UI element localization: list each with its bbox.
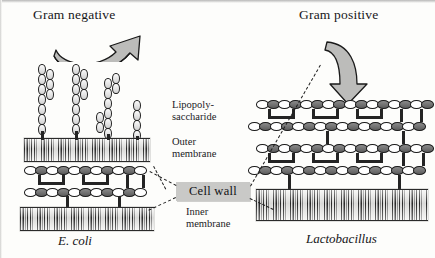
label-inner-membrane-line1: Inner bbox=[186, 206, 208, 218]
label-outer-membrane-line2: membrane bbox=[172, 148, 216, 160]
peptide-crosslink bbox=[126, 175, 129, 188]
inner-membrane-bilayer bbox=[20, 207, 154, 231]
scan-edge-left bbox=[0, 0, 2, 258]
peptidoglycan-row bbox=[24, 188, 150, 197]
peptidoglycan-row bbox=[248, 122, 424, 131]
lps-anchor bbox=[136, 136, 139, 140]
inner-membrane-bilayer bbox=[256, 189, 428, 221]
cell-envelope-diagram: Gram negative Gram positive bbox=[0, 0, 435, 258]
curved-arrow-down-icon bbox=[321, 38, 371, 108]
peptide-crosslink bbox=[420, 109, 423, 122]
peptide-crosslink-bar bbox=[356, 160, 383, 163]
title-gram-negative: Gram negative bbox=[33, 7, 115, 23]
peptide-crosslink-bar bbox=[312, 160, 339, 163]
peptide-crosslink-bar bbox=[268, 160, 295, 163]
label-inner-membrane-line2: membrane bbox=[186, 218, 230, 230]
label-outer-membrane-line1: Outer bbox=[172, 136, 196, 148]
peptidoglycan-row bbox=[248, 166, 424, 175]
label-cell-wall: Cell wall bbox=[189, 184, 237, 199]
peptidoglycan-row bbox=[256, 144, 432, 153]
curved-arrow-up-right-icon bbox=[52, 26, 157, 62]
callout-guide-line bbox=[148, 197, 176, 211]
species-label-right: Lactobacillus bbox=[306, 231, 377, 247]
peptide-crosslink bbox=[400, 109, 403, 122]
label-lipopolysaccharide-line1: Lipopoly- bbox=[172, 99, 214, 111]
scan-edge-top bbox=[0, 0, 435, 3]
peptide-crosslink-bar bbox=[312, 116, 339, 119]
peptide-crosslink-bar bbox=[38, 182, 65, 185]
lps-anchor bbox=[107, 134, 110, 140]
peptidoglycan-row bbox=[24, 166, 150, 175]
peptide-crosslink bbox=[402, 153, 405, 166]
species-label-left: E. coli bbox=[58, 233, 92, 249]
peptide-crosslink bbox=[422, 153, 425, 166]
cell-wall-callout: Cell wall bbox=[176, 182, 250, 201]
peptidoglycan-row bbox=[256, 100, 432, 109]
title-gram-positive: Gram positive bbox=[299, 7, 378, 23]
peptide-crosslink bbox=[142, 175, 145, 188]
peptide-crosslink bbox=[326, 131, 329, 144]
peptide-crosslink-bar bbox=[356, 116, 383, 119]
peptide-crosslink bbox=[402, 131, 405, 144]
membrane-anchor bbox=[398, 175, 401, 190]
lps-anchor bbox=[41, 131, 44, 140]
label-lipopolysaccharide-line2: saccharide bbox=[172, 111, 216, 123]
outer-membrane-bilayer bbox=[24, 138, 150, 162]
peptide-crosslink-bar bbox=[82, 182, 109, 185]
lps-anchor bbox=[75, 131, 78, 140]
membrane-anchor bbox=[288, 175, 291, 190]
